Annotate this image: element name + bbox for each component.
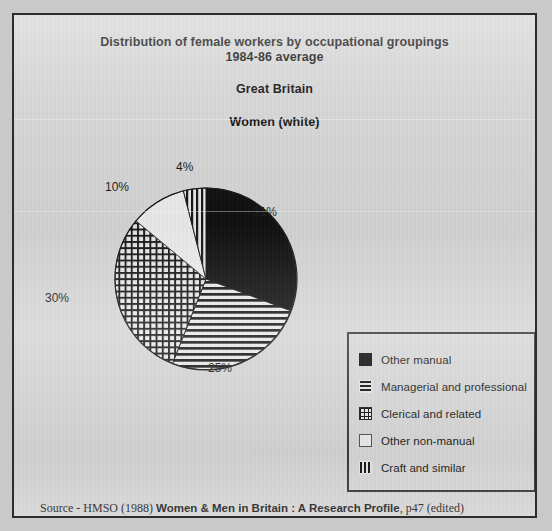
legend-label: Managerial and professional — [381, 381, 527, 393]
source-prefix: Source - HMSO (1988) — [40, 501, 156, 515]
pie-label-31: 31% — [253, 205, 277, 219]
white-swatch-icon — [359, 434, 372, 447]
legend-item-other-non-manual: Other non-manual — [359, 427, 534, 454]
legend-label: Clerical and related — [381, 408, 481, 420]
solid-black-swatch-icon — [359, 353, 372, 366]
region-label: Great Britain — [14, 82, 535, 97]
page-title: Distribution of female workers by occupa… — [14, 35, 535, 50]
pie-label-4: 4% — [176, 160, 193, 174]
pie-label-25: 25% — [208, 361, 232, 375]
pie-label-10: 10% — [105, 180, 129, 194]
figure-title-block: Distribution of female workers by occupa… — [14, 35, 535, 130]
legend-item-other-manual: Other manual — [359, 346, 534, 373]
legend-label: Other non-manual — [381, 435, 475, 447]
legend-item-clerical-and-related: Clerical and related — [359, 400, 534, 427]
page-subtitle: 1984-86 average — [14, 50, 535, 65]
legend-label: Other manual — [381, 354, 451, 366]
source-note: Source - HMSO (1988) Women & Men in Brit… — [40, 501, 464, 516]
source-publication: Women & Men in Britain : A Research Prof… — [156, 502, 400, 514]
chart-legend: Other manual Managerial and professional… — [347, 332, 536, 492]
figure-paper: Distribution of female workers by occupa… — [12, 13, 537, 518]
legend-item-managerial-and-professional: Managerial and professional — [359, 373, 534, 400]
pie-label-30: 30% — [45, 291, 69, 305]
vertical-lines-swatch-icon — [359, 461, 372, 474]
source-suffix: , p47 (edited) — [400, 501, 464, 515]
horizontal-lines-swatch-icon — [359, 380, 372, 393]
legend-label: Craft and similar — [381, 462, 466, 474]
grid-swatch-icon — [359, 407, 372, 420]
group-label: Women (white) — [14, 115, 535, 130]
legend-item-craft-and-similar: Craft and similar — [359, 454, 534, 481]
